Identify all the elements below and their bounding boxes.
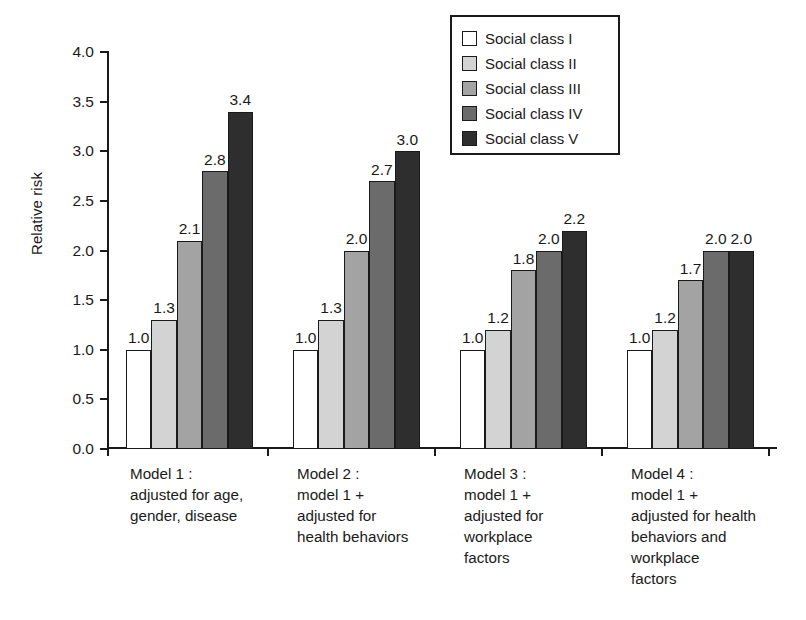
bar-value-label: 3.4 — [230, 92, 252, 108]
bar-value-label: 2.0 — [538, 231, 560, 247]
bar-value-label: 1.3 — [320, 300, 342, 316]
bar-column[interactable]: 1.0 — [627, 52, 652, 449]
bar-value-label: 2.0 — [346, 231, 368, 247]
bar-value-label: 2.2 — [564, 211, 586, 227]
bar-column[interactable]: 2.0 — [344, 52, 369, 449]
bar[interactable] — [151, 320, 176, 449]
y-tick-label: 4.0 — [48, 44, 94, 60]
bar-column[interactable]: 3.4 — [228, 52, 253, 449]
legend: Social class ISocial class IISocial clas… — [450, 15, 620, 155]
bar[interactable] — [126, 350, 151, 449]
bar[interactable] — [293, 350, 318, 449]
legend-swatch-icon — [462, 106, 477, 121]
bar[interactable] — [729, 251, 754, 450]
bar-value-label: 2.0 — [705, 231, 727, 247]
bar-value-label: 1.0 — [128, 330, 150, 346]
bar-value-label: 2.7 — [371, 162, 393, 178]
y-tick-label: 2.5 — [48, 193, 94, 209]
bar-column[interactable]: 3.0 — [395, 52, 420, 449]
bar-value-label: 2.8 — [204, 152, 226, 168]
bar-value-label: 2.1 — [179, 221, 201, 237]
y-tick-label: 3.5 — [48, 94, 94, 110]
bar[interactable] — [318, 320, 343, 449]
bar-group: 1.01.32.02.73.0 — [293, 52, 420, 449]
bar-value-label: 3.0 — [397, 132, 419, 148]
bar[interactable] — [703, 251, 728, 450]
plot-area: 1.01.32.12.83.41.01.32.02.73.01.01.21.82… — [107, 52, 777, 449]
x-category-label: Model 3 : model 1 + adjusted for workpla… — [464, 463, 624, 568]
bar[interactable] — [678, 280, 703, 449]
legend-label: Social class IV — [485, 106, 583, 121]
bar-value-label: 1.7 — [680, 261, 702, 277]
legend-label: Social class V — [485, 131, 578, 146]
bar[interactable] — [485, 330, 510, 449]
legend-item[interactable]: Social class II — [462, 51, 618, 75]
bar-value-label: 1.3 — [153, 300, 175, 316]
legend-item[interactable]: Social class III — [462, 76, 618, 100]
bar-group: 1.01.32.12.83.4 — [126, 52, 253, 449]
bar-column[interactable]: 2.0 — [703, 52, 728, 449]
bar-chart: Relative risk 0.00.51.01.52.02.53.03.54.… — [0, 0, 806, 620]
legend-swatch-icon — [462, 131, 477, 146]
bar-value-label: 1.0 — [629, 330, 651, 346]
x-category-label: Model 1 : adjusted for age, gender, dise… — [130, 463, 290, 526]
bar-column[interactable]: 2.8 — [202, 52, 227, 449]
bar[interactable] — [369, 181, 394, 449]
bar[interactable] — [395, 151, 420, 449]
bar-group: 1.01.21.72.02.0 — [627, 52, 754, 449]
bar[interactable] — [460, 350, 485, 449]
legend-swatch-icon — [462, 31, 477, 46]
bar[interactable] — [627, 350, 652, 449]
bar-value-label: 1.2 — [487, 310, 509, 326]
bar[interactable] — [202, 171, 227, 449]
bar[interactable] — [536, 251, 561, 450]
bar[interactable] — [344, 251, 369, 450]
bar-column[interactable]: 1.2 — [652, 52, 677, 449]
x-category-label: Model 2 : model 1 + adjusted for health … — [297, 463, 457, 547]
y-tick-label: 1.5 — [48, 292, 94, 308]
bar[interactable] — [562, 231, 587, 449]
legend-item[interactable]: Social class I — [462, 26, 618, 50]
legend-item[interactable]: Social class IV — [462, 101, 618, 125]
bar-column[interactable]: 2.0 — [729, 52, 754, 449]
bar-column[interactable]: 1.0 — [126, 52, 151, 449]
x-category-label: Model 4 : model 1 + adjusted for health … — [631, 463, 791, 589]
legend-item[interactable]: Social class V — [462, 126, 618, 150]
bar-column[interactable]: 1.3 — [151, 52, 176, 449]
bar-value-label: 2.0 — [731, 231, 753, 247]
bar-column[interactable]: 2.7 — [369, 52, 394, 449]
bar-value-label: 1.0 — [295, 330, 317, 346]
y-tick-label: 2.0 — [48, 243, 94, 259]
y-tick-label: 0.5 — [48, 391, 94, 407]
bar-column[interactable]: 1.7 — [678, 52, 703, 449]
bar[interactable] — [228, 112, 253, 449]
bar-column[interactable]: 2.1 — [177, 52, 202, 449]
legend-label: Social class III — [485, 81, 581, 96]
bar-value-label: 1.8 — [513, 251, 535, 267]
bar[interactable] — [511, 270, 536, 449]
legend-swatch-icon — [462, 56, 477, 71]
legend-label: Social class I — [485, 31, 573, 46]
bar-column[interactable]: 1.3 — [318, 52, 343, 449]
y-tick-label: 0.0 — [48, 441, 94, 457]
bar-value-label: 1.2 — [654, 310, 676, 326]
y-axis-title: Relative risk — [28, 134, 45, 294]
y-tick-label: 1.0 — [48, 342, 94, 358]
legend-swatch-icon — [462, 81, 477, 96]
bar[interactable] — [652, 330, 677, 449]
legend-label: Social class II — [485, 56, 577, 71]
bar-value-label: 1.0 — [462, 330, 484, 346]
bar[interactable] — [177, 241, 202, 449]
y-tick-label: 3.0 — [48, 143, 94, 159]
bar-column[interactable]: 1.0 — [293, 52, 318, 449]
